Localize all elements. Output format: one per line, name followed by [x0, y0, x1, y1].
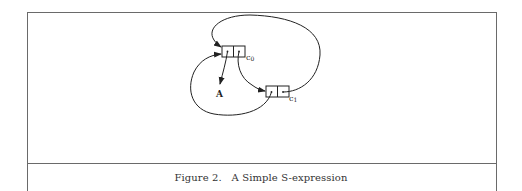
- c0-label: c0: [246, 53, 254, 62]
- s-expression-diagram: c0 c1 A: [0, 0, 522, 191]
- c1-label: c1: [289, 94, 297, 103]
- cons-cell-c0: [222, 46, 245, 57]
- atom-a: A: [215, 89, 224, 99]
- edge-c1-car-to-c0: [191, 54, 272, 115]
- figure-caption: Figure 2. A Simple S-expression: [0, 172, 522, 183]
